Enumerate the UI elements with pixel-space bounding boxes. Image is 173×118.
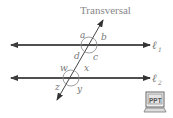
angle-label-a: a [80, 30, 85, 40]
angle-label-c: c [93, 52, 98, 62]
transversal-diagram: Transversal a b c d w x y z ℓ [0, 0, 173, 118]
ppt-icon[interactable]: PPT [144, 92, 166, 112]
line-label-l1: ℓ 1 [152, 39, 162, 53]
svg-text:PPT: PPT [149, 97, 162, 104]
transversal-title: Transversal [80, 4, 131, 16]
svg-text:ℓ: ℓ [152, 39, 157, 52]
angle-label-d: d [74, 51, 80, 61]
svg-text:ℓ: ℓ [152, 72, 157, 85]
svg-text:2: 2 [157, 79, 162, 86]
angle-label-x: x [84, 63, 89, 73]
diagram-canvas: Transversal a b c d w x y z ℓ [0, 0, 173, 118]
angle-label-z: z [54, 82, 60, 92]
line-label-l2: ℓ 2 [152, 72, 162, 86]
angle-label-b: b [101, 32, 107, 42]
angle-label-y: y [76, 84, 83, 94]
svg-text:1: 1 [158, 46, 162, 53]
angle-label-w: w [60, 63, 68, 73]
